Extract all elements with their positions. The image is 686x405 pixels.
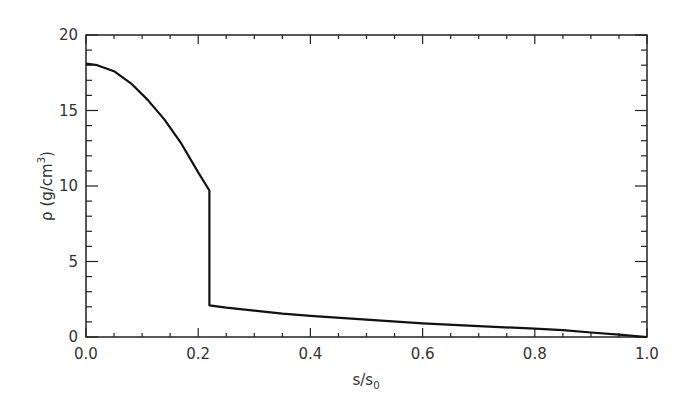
- x-tick-labels: 0.00.20.40.60.81.0: [74, 345, 659, 363]
- y-tick-label: 10: [59, 177, 78, 195]
- x-tick-label: 0.4: [298, 345, 322, 363]
- y-axis-label: ρ (g/cm3): [36, 151, 56, 221]
- y-tick-label: 5: [68, 253, 78, 271]
- x-tick-label: 1.0: [635, 345, 659, 363]
- y-tick-labels: 05101520: [59, 26, 78, 346]
- y-tick-label: 20: [59, 26, 78, 44]
- axis-ticks: [86, 35, 647, 337]
- x-tick-label: 0.2: [186, 345, 210, 363]
- plot-frame: [86, 35, 647, 337]
- x-tick-label: 0.8: [523, 345, 547, 363]
- y-tick-label: 15: [59, 102, 78, 120]
- density-curve: [86, 64, 647, 337]
- x-tick-label: 0.6: [411, 345, 435, 363]
- x-tick-label: 0.0: [74, 345, 98, 363]
- density-profile-chart: 0.00.20.40.60.81.0 05101520 s/s0 ρ (g/cm…: [0, 0, 686, 405]
- y-tick-label: 0: [68, 328, 78, 346]
- x-axis-label: s/s0: [352, 371, 379, 391]
